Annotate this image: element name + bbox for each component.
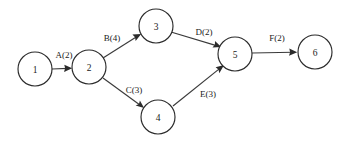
node-5[interactable]: 5	[218, 37, 252, 71]
node-2[interactable]: 2	[72, 50, 106, 84]
edge-A-label: A(2)	[56, 50, 73, 60]
node-1-label: 1	[33, 65, 38, 75]
network-diagram-svg: A(2) B(4) C(3) D(2) E(3)	[0, 0, 346, 142]
nodes-group: 1 2 3 4 5 6	[18, 9, 332, 134]
edge-C-label: C(3)	[126, 85, 143, 95]
node-1[interactable]: 1	[18, 52, 52, 86]
node-5-label: 5	[233, 50, 238, 60]
edge-A[interactable]: A(2)	[52, 50, 73, 72]
edge-C-arrowhead	[136, 100, 145, 108]
edge-D[interactable]: D(2)	[171, 27, 221, 48]
node-6-label: 6	[313, 48, 318, 58]
edge-E-label: E(3)	[200, 89, 216, 99]
node-4-label: 4	[156, 113, 161, 123]
edge-D-label: D(2)	[196, 27, 213, 37]
node-6[interactable]: 6	[298, 35, 332, 69]
edge-F-label: F(2)	[269, 33, 285, 43]
edge-A-arrowhead	[64, 65, 72, 72]
edge-C[interactable]: C(3)	[103, 78, 144, 108]
edge-B-arrowhead	[132, 34, 141, 41]
edge-E-line	[173, 68, 221, 106]
network-diagram-canvas: A(2) B(4) C(3) D(2) E(3)	[0, 0, 346, 142]
edge-E[interactable]: E(3)	[173, 65, 224, 106]
edge-F[interactable]: F(2)	[252, 33, 297, 56]
node-4[interactable]: 4	[141, 100, 175, 134]
edge-B[interactable]: B(4)	[103, 33, 141, 58]
edge-B-label: B(4)	[104, 33, 121, 43]
node-2-label: 2	[87, 63, 92, 73]
node-3[interactable]: 3	[139, 9, 173, 43]
node-3-label: 3	[154, 22, 159, 32]
edge-F-arrowhead	[289, 49, 297, 56]
edge-F-line	[252, 52, 293, 53]
